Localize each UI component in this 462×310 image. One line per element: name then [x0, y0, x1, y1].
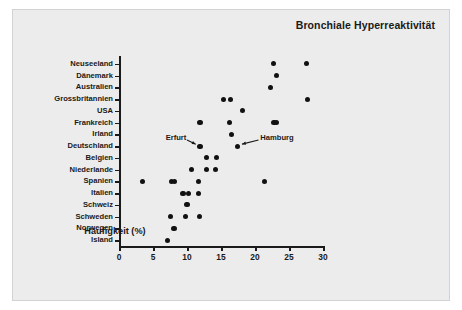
data-point — [186, 191, 191, 196]
y-tick-mark — [115, 111, 120, 113]
data-point — [196, 191, 201, 196]
data-point — [221, 97, 226, 102]
y-axis-label: Belgien — [86, 154, 113, 162]
x-tick-mark — [119, 246, 121, 251]
data-point — [228, 97, 233, 102]
y-axis-label: Niederlande — [70, 166, 113, 174]
x-axis-tick-label: 10 — [182, 253, 191, 261]
data-point — [172, 179, 177, 184]
x-axis-tick-label: 0 — [117, 253, 122, 261]
chart-title: Bronchiale Hyperreaktivität — [296, 19, 435, 31]
y-tick-mark — [115, 193, 120, 195]
y-tick-mark — [115, 123, 120, 125]
y-axis-label: Neuseeland — [70, 60, 113, 68]
y-axis-label: Frankreich — [74, 119, 113, 127]
y-tick-mark — [115, 181, 120, 183]
data-point — [197, 120, 202, 125]
y-axis-label: Grossbritannien — [54, 95, 113, 103]
data-point — [271, 61, 276, 66]
y-axis-label: Spanien — [83, 178, 113, 186]
data-point — [262, 179, 267, 184]
y-axis-label: Italien — [91, 189, 113, 197]
data-point — [305, 97, 310, 102]
y-tick-mark — [115, 146, 120, 148]
x-tick-mark — [323, 246, 325, 251]
data-point — [165, 238, 170, 243]
y-tick-mark — [115, 76, 120, 78]
annotation-arrow-erfurt — [181, 134, 202, 150]
scatter-plot-area: NeuseelandDänemarkAustralienGrossbritann… — [119, 58, 323, 246]
data-point — [204, 167, 209, 172]
x-axis-tick-label: 25 — [284, 253, 293, 261]
annotation-arrow-hamburg — [236, 134, 265, 150]
y-tick-mark — [115, 64, 120, 66]
y-tick-mark — [115, 87, 120, 89]
y-tick-mark — [115, 205, 120, 207]
data-point — [140, 179, 145, 184]
y-axis-label: Australien — [76, 84, 113, 92]
data-point — [274, 73, 279, 78]
x-axis-tick-label: 15 — [216, 253, 225, 261]
y-axis-label: Schweden — [75, 213, 113, 221]
y-tick-mark — [115, 170, 120, 172]
data-point — [240, 108, 245, 113]
annotation-label-hamburg: Hamburg — [260, 134, 293, 142]
x-axis-tick-label: 20 — [250, 253, 259, 261]
y-axis-label: Irland — [92, 131, 113, 139]
y-tick-mark — [115, 99, 120, 101]
x-tick-mark — [255, 246, 257, 251]
data-point — [171, 226, 176, 231]
figure-panel: Bronchiale Hyperreaktivität NeuseelandDä… — [12, 9, 450, 301]
data-point — [168, 214, 173, 219]
x-tick-mark — [187, 246, 189, 251]
data-point — [183, 214, 188, 219]
data-point — [227, 120, 232, 125]
x-tick-mark — [221, 246, 223, 251]
data-point — [304, 61, 309, 66]
y-axis-label: Dänemark — [76, 72, 113, 80]
data-point — [274, 120, 279, 125]
y-tick-mark — [115, 158, 120, 160]
data-point — [197, 214, 202, 219]
data-point — [213, 167, 218, 172]
y-tick-mark — [115, 134, 120, 136]
y-axis-label: Schweiz — [83, 201, 113, 209]
data-point — [184, 202, 189, 207]
y-tick-mark — [115, 240, 120, 242]
x-axis-tick-label: 5 — [151, 253, 156, 261]
x-tick-mark — [289, 246, 291, 251]
y-axis-label: Island — [91, 236, 113, 244]
data-point — [189, 167, 194, 172]
data-point — [180, 191, 185, 196]
y-axis-line — [119, 56, 121, 246]
data-point — [214, 155, 219, 160]
y-tick-mark — [115, 217, 120, 219]
y-axis-label: Deutschland — [67, 142, 113, 150]
data-point — [196, 179, 201, 184]
x-axis-title: Häufigkeit (%) — [84, 226, 145, 236]
data-point — [229, 132, 234, 137]
y-axis-label: USA — [97, 107, 113, 115]
x-axis-tick-label: 30 — [318, 253, 327, 261]
data-point — [204, 155, 209, 160]
x-tick-mark — [153, 246, 155, 251]
data-point — [268, 85, 273, 90]
